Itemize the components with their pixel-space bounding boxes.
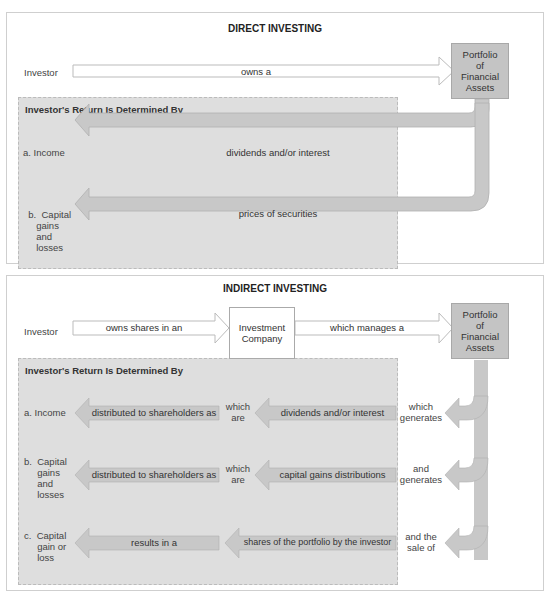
indirect-row-capital-gain-label: c. Capital gain or loss [24,530,66,563]
indirect-manages-label: which manages a [295,322,439,333]
indirect-row-a-mid: whichare [221,401,255,423]
direct-row-capital-label: b. Capital gains and losses [23,198,71,253]
indirect-portfolio-box: Portfolio of Financial Assets [451,303,509,359]
direct-row-income-arrow-text: dividends and/or interest [88,147,468,158]
indirect-row-a-side: whichgenerates [397,401,445,423]
direct-owns-label: owns a [73,66,439,77]
indirect-owns-label: owns shares in an [73,322,215,333]
indirect-row-capital-label: b. Capital gains and losses [24,456,67,500]
direct-portfolio-box: Portfolio of Financial Assets [451,43,509,99]
indirect-row-b-mid: whichare [221,463,255,485]
investment-company-box: Investment Company [229,307,295,359]
direct-row-capital-arrow-text: prices of securities [88,208,468,219]
indirect-row-c-left-arrow-text: results in a [89,537,219,548]
indirect-row-c-right-arrow-text: shares of the portfolio by the investor [239,537,396,547]
direct-investing-panel: DIRECT INVESTING Investor Investor's Ret… [6,12,544,264]
indirect-investing-panel: INDIRECT INVESTING Investor Investor's R… [6,275,544,591]
direct-row-income-label: a. Income [23,147,65,158]
indirect-row-b-side: andgenerates [397,463,445,485]
indirect-row-a-right-arrow-text: dividends and/or interest [269,407,396,418]
indirect-row-b-left-arrow-text: distributed to shareholders as [89,469,219,480]
indirect-row-income-label: a. Income [24,407,66,418]
indirect-row-a-left-arrow-text: distributed to shareholders as [89,407,219,418]
indirect-row-b-right-arrow-text: capital gains distributions [269,469,396,480]
indirect-row-c-side: and thesale of [397,531,445,553]
